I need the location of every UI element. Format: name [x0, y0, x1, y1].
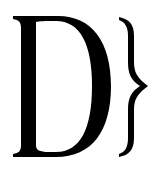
- closing-brace-glyph: [119, 17, 148, 157]
- letter-d-glyph: [13, 16, 111, 157]
